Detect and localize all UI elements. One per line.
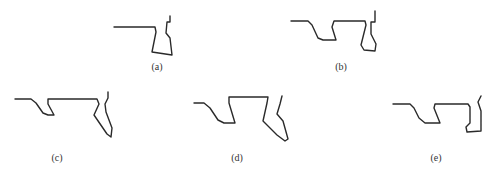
caption-d: (d) xyxy=(231,153,243,163)
profile-outline-d xyxy=(194,96,288,141)
caption-a: (a) xyxy=(151,62,162,72)
profile-outline-b xyxy=(291,11,376,51)
caption-c: (c) xyxy=(51,153,62,163)
profile-outline-e xyxy=(393,96,481,132)
caption-e: (e) xyxy=(430,153,441,163)
profile-diagram xyxy=(0,0,496,173)
caption-b: (b) xyxy=(335,62,347,72)
profile-outline-c xyxy=(15,92,112,137)
profile-outline-a xyxy=(114,16,172,55)
